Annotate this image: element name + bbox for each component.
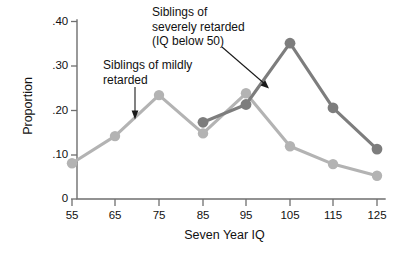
y-tick-label-30: .30 — [36, 59, 68, 71]
y-axis-title: Proportion — [21, 61, 35, 151]
x-tick-label-55: 55 — [52, 209, 92, 221]
annotation-severe-line-3: (IQ below 50) — [152, 34, 245, 49]
annotation-mild-line-2: retarded — [103, 73, 192, 88]
x-axis-title: Seven Year IQ — [72, 228, 377, 242]
x-axis-ticks — [72, 199, 377, 206]
annotation-mildly-retarded: Siblings of mildly retarded — [103, 58, 192, 87]
series-severely-retarded — [198, 38, 383, 155]
chart-figure: .40 .30 .20 .10 0 55 65 75 85 95 105 115… — [0, 0, 404, 254]
y-tick-label-40: .40 — [36, 15, 68, 27]
series-mildly-retarded — [67, 88, 382, 181]
y-axis-ticks — [71, 22, 77, 200]
annotation-severe-line-1: Siblings of — [152, 5, 245, 20]
y-tick-label-10: .10 — [36, 148, 68, 160]
x-tick-label-115: 115 — [313, 209, 353, 221]
annotation-severe-line-2: severely retarded — [152, 20, 245, 35]
annotation-severely-retarded: Siblings of severely retarded (IQ below … — [152, 5, 245, 49]
x-tick-label-75: 75 — [139, 209, 179, 221]
x-tick-label-95: 95 — [226, 209, 266, 221]
x-tick-label-85: 85 — [183, 209, 223, 221]
annotation-mild-line-1: Siblings of mildly — [103, 58, 192, 73]
x-tick-label-105: 105 — [270, 209, 310, 221]
y-tick-label-20: .20 — [36, 104, 68, 116]
x-tick-label-65: 65 — [95, 209, 135, 221]
y-tick-label-0: 0 — [36, 192, 68, 204]
x-tick-label-125: 125 — [357, 209, 397, 221]
